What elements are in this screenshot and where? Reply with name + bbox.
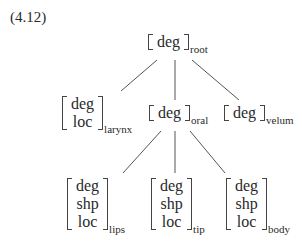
node-subscript: body <box>268 223 290 235</box>
feature-shp: shp <box>160 195 182 213</box>
feature-shp: shp <box>76 195 98 213</box>
node-tip: deg shp loc tip <box>151 177 205 231</box>
node-subscript: lips <box>109 223 125 235</box>
node-subscript: velum <box>266 114 294 126</box>
feature-shp: shp <box>235 195 257 213</box>
node-subscript: larynx <box>104 123 132 135</box>
node-lips: deg shp loc lips <box>67 177 125 231</box>
feature-deg: deg <box>157 33 180 51</box>
node-root: deg root <box>148 33 208 51</box>
edge-oral-lips <box>123 131 161 173</box>
node-velum: deg velum <box>224 104 294 122</box>
edge-oral-body <box>190 131 225 173</box>
feature-matrix: deg shp loc <box>226 177 267 231</box>
feature-deg: deg <box>158 104 181 122</box>
feature-loc: loc <box>78 213 98 231</box>
feature-loc: loc <box>73 113 93 131</box>
node-larynx: deg loc larynx <box>62 95 132 131</box>
feature-matrix: deg <box>149 104 190 122</box>
feature-deg: deg <box>235 177 258 195</box>
node-oral: deg oral <box>149 104 208 122</box>
node-body: deg shp loc body <box>226 177 290 231</box>
feature-loc: loc <box>162 213 182 231</box>
feature-matrix: deg shp loc <box>67 177 108 231</box>
feature-deg: deg <box>160 177 183 195</box>
feature-deg: deg <box>76 177 99 195</box>
edge-root-velum <box>192 60 239 100</box>
node-subscript: oral <box>191 114 208 126</box>
feature-matrix: deg shp loc <box>151 177 192 231</box>
node-subscript: root <box>190 43 208 55</box>
feature-loc: loc <box>237 213 257 231</box>
feature-matrix: deg <box>224 104 265 122</box>
edge-root-larynx <box>121 60 157 91</box>
feature-matrix: deg loc <box>62 95 103 131</box>
node-subscript: tip <box>193 223 205 235</box>
feature-matrix: deg <box>148 33 189 51</box>
feature-deg: deg <box>71 95 94 113</box>
feature-deg: deg <box>233 104 256 122</box>
